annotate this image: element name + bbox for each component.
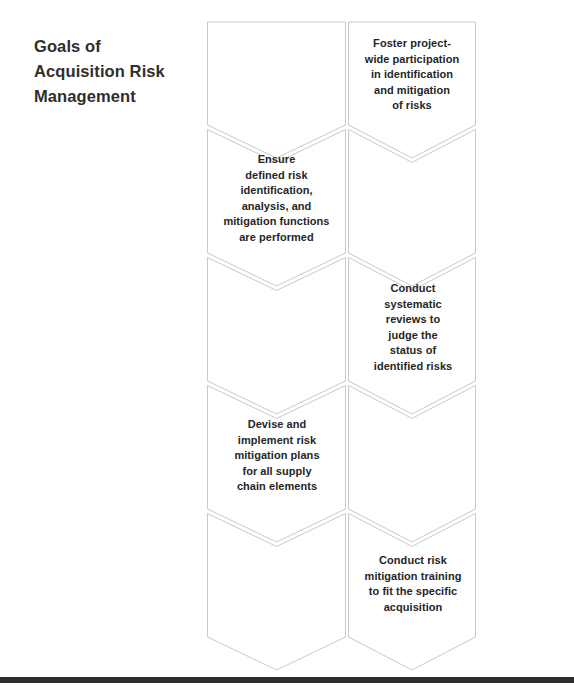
hexagon-label-foster-participation: Foster project- wide participation in id… [345, 36, 479, 114]
hexagon-label-devise-implement-plans: Devise and implement risk mitigation pla… [201, 417, 353, 495]
hexagon-left-row1[interactable] [208, 22, 346, 158]
bottom-divider-bar [0, 677, 574, 683]
hexagon-diagram: Foster project- wide participation in id… [0, 0, 574, 695]
hexagon-shapes-layer [0, 0, 574, 695]
hexagon-label-ensure-defined-risk: Ensure defined risk identification, anal… [195, 152, 358, 246]
hexagon-label-conduct-systematic-reviews: Conduct systematic reviews to judge the … [348, 281, 478, 375]
slide-canvas: Goals of Acquisition Risk Management [0, 0, 574, 695]
hexagon-label-conduct-risk-training: Conduct risk mitigation training to fit … [340, 553, 486, 615]
